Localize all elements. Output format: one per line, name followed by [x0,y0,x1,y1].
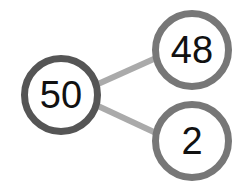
part-1-value: 48 [171,29,213,72]
connector-whole-to-part-2 [98,106,156,133]
whole-value: 50 [40,74,82,117]
part-2-value: 2 [181,120,202,163]
connector-whole-to-part-1 [98,58,156,84]
part-circle-1: 48 [152,10,232,90]
whole-circle: 50 [21,55,101,135]
part-circle-2: 2 [152,101,232,181]
